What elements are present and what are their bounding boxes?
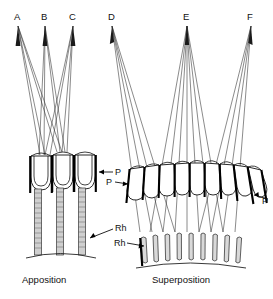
label-f: F bbox=[247, 11, 253, 22]
label-rh-apposition: Rh bbox=[115, 223, 127, 233]
rhabdom-2 bbox=[57, 188, 64, 255]
caption-apposition: Apposition bbox=[22, 274, 66, 285]
label-b: B bbox=[41, 11, 47, 22]
annotation-rh-apposition: Rh bbox=[90, 223, 127, 238]
diagram-canvas: P Rh A B C Apposition bbox=[0, 0, 273, 299]
label-c: C bbox=[69, 11, 76, 22]
apposition-panel: P Rh A B C Apposition bbox=[14, 11, 127, 285]
label-p-apposition: P bbox=[115, 167, 121, 177]
caption-superposition: Superposition bbox=[152, 274, 210, 285]
facet-4 bbox=[175, 161, 190, 197]
eye-optics-diagram: P Rh A B C Apposition bbox=[0, 0, 273, 299]
superposition-facets bbox=[126, 161, 267, 205]
superposition-rays bbox=[112, 26, 251, 232]
apposition-rhabdoms bbox=[26, 188, 96, 258]
label-a: A bbox=[14, 11, 21, 22]
facet-6 bbox=[205, 161, 221, 197]
annotation-p-superposition-left: P bbox=[106, 177, 128, 187]
apposition-facets bbox=[30, 152, 96, 193]
facet-2 bbox=[143, 164, 160, 200]
facet-5 bbox=[190, 161, 205, 198]
label-p-superposition-left: P bbox=[106, 177, 112, 187]
label-p-superposition-right: P bbox=[262, 196, 268, 206]
facet-3 bbox=[159, 162, 175, 198]
label-d: D bbox=[108, 11, 115, 22]
label-e: E bbox=[183, 11, 189, 22]
annotation-p-apposition: P bbox=[99, 167, 121, 177]
rhabdom-1 bbox=[35, 189, 42, 255]
rhabdom-3 bbox=[79, 188, 86, 255]
superposition-source-points bbox=[110, 26, 253, 45]
superposition-rhabdoms bbox=[136, 233, 246, 268]
superposition-panel: P P Rh D E F Superposition bbox=[106, 11, 268, 285]
label-rh-superposition: Rh bbox=[114, 238, 126, 248]
